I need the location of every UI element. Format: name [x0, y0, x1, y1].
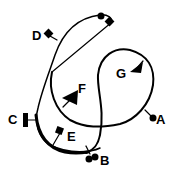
- label-f: F: [78, 81, 86, 96]
- lower-thick-arc: [36, 115, 88, 153]
- marker-c-bar: [23, 113, 28, 127]
- label-b: B: [100, 153, 109, 168]
- marker-e-diamond: [55, 126, 64, 135]
- curve-diagram: A B C D E F G: [0, 0, 181, 178]
- label-e: E: [67, 129, 76, 144]
- marker-g-arrowhead: [130, 62, 143, 73]
- stub-d: [50, 36, 57, 40]
- label-c: C: [8, 112, 18, 127]
- marker-b-circle-2: [92, 154, 99, 161]
- stub-e: [53, 133, 60, 145]
- top-circle-marker: [98, 13, 105, 20]
- top-diamond-marker: [105, 17, 115, 27]
- marker-b-circle-1: [86, 156, 93, 163]
- label-d: D: [32, 28, 41, 43]
- label-g: G: [116, 66, 126, 81]
- diagonal-line: [52, 22, 112, 72]
- marker-f-arrowhead: [62, 90, 78, 105]
- label-a: A: [156, 112, 166, 127]
